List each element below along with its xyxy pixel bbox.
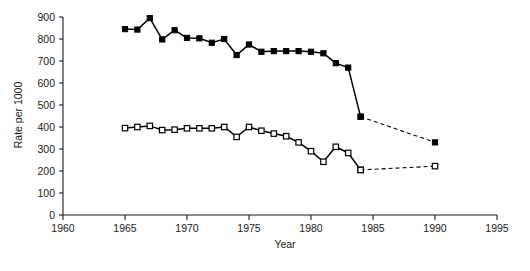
data-point-marker <box>296 140 301 145</box>
data-point-marker <box>284 49 289 54</box>
y-tick-label: 300 <box>37 143 55 155</box>
y-tick-label: 800 <box>37 33 55 45</box>
data-point-marker <box>122 125 127 130</box>
data-point-marker <box>246 42 251 47</box>
data-point-marker <box>308 149 313 154</box>
y-axis-title: Rate per 1000 <box>12 82 24 149</box>
series-line-open-square-projection <box>361 166 435 170</box>
y-tick-label: 400 <box>37 121 55 133</box>
data-point-marker <box>432 140 437 145</box>
data-point-marker <box>147 123 152 128</box>
data-point-marker <box>246 124 251 129</box>
x-tick-label: 1975 <box>237 222 261 234</box>
data-point-marker <box>172 127 177 132</box>
y-axis: 0100200300400500600700800900 <box>37 11 63 221</box>
data-point-marker <box>172 28 177 33</box>
data-point-marker <box>308 49 313 54</box>
data-point-marker <box>197 126 202 131</box>
x-tick-label: 1990 <box>423 222 447 234</box>
x-tick-label: 1985 <box>361 222 385 234</box>
data-point-marker <box>184 126 189 131</box>
line-chart: 0100200300400500600700800900 19601965197… <box>0 0 530 271</box>
data-series-group <box>122 16 437 173</box>
data-point-marker <box>222 124 227 129</box>
data-point-marker <box>122 27 127 32</box>
data-point-marker <box>135 124 140 129</box>
y-tick-label: 900 <box>37 11 55 23</box>
data-point-marker <box>160 127 165 132</box>
data-point-marker <box>333 144 338 149</box>
data-point-marker <box>197 36 202 41</box>
chart-figure: 0100200300400500600700800900 19601965197… <box>0 0 530 271</box>
y-tick-label: 0 <box>49 209 55 221</box>
data-point-marker <box>160 37 165 42</box>
y-tick-label: 100 <box>37 187 55 199</box>
data-point-marker <box>358 167 363 172</box>
data-point-marker <box>135 27 140 32</box>
data-point-marker <box>432 163 437 168</box>
x-axis: 19601965197019751980198519901995 <box>51 215 509 234</box>
data-point-marker <box>209 126 214 131</box>
y-tick-label: 200 <box>37 165 55 177</box>
data-point-marker <box>321 51 326 56</box>
x-tick-label: 1970 <box>175 222 199 234</box>
y-tick-label: 500 <box>37 99 55 111</box>
data-point-marker <box>234 52 239 57</box>
x-tick-label: 1965 <box>113 222 137 234</box>
series-line-filled-square-projection <box>361 117 435 143</box>
series-line-filled-square-series <box>125 18 361 117</box>
x-tick-label: 1995 <box>485 222 509 234</box>
data-point-marker <box>147 16 152 21</box>
data-point-marker <box>271 131 276 136</box>
data-point-marker <box>271 49 276 54</box>
data-point-marker <box>234 134 239 139</box>
data-point-marker <box>184 35 189 40</box>
data-point-marker <box>284 134 289 139</box>
data-point-marker <box>358 114 363 119</box>
data-point-marker <box>209 40 214 45</box>
data-point-marker <box>259 128 264 133</box>
y-tick-label: 700 <box>37 55 55 67</box>
data-point-marker <box>346 150 351 155</box>
data-point-marker <box>259 49 264 54</box>
data-point-marker <box>333 61 338 66</box>
data-point-marker <box>296 49 301 54</box>
data-point-marker <box>321 159 326 164</box>
data-point-marker <box>346 65 351 70</box>
y-tick-label: 600 <box>37 77 55 89</box>
data-point-marker <box>222 36 227 41</box>
x-tick-label: 1980 <box>299 222 323 234</box>
x-axis-title: Year <box>274 238 296 250</box>
x-tick-label: 1960 <box>51 222 75 234</box>
